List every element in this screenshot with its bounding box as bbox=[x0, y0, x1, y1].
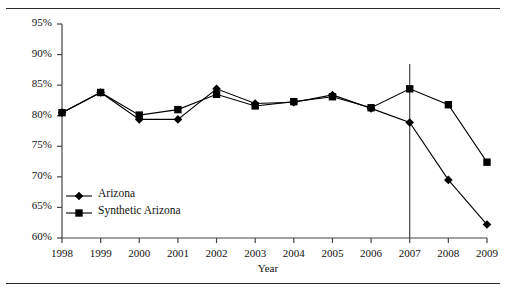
data-point-marker bbox=[58, 109, 65, 116]
x-axis-tick-label: 2004 bbox=[274, 247, 314, 259]
y-axis-tick-label: 80% bbox=[18, 108, 52, 120]
x-axis-tick-label: 2000 bbox=[119, 247, 159, 259]
data-point-marker bbox=[251, 102, 258, 109]
legend-label: Arizona bbox=[98, 187, 135, 199]
x-axis-tick-label: 2003 bbox=[235, 247, 275, 259]
x-axis-tick-label: 2006 bbox=[351, 247, 391, 259]
data-point-marker bbox=[367, 104, 374, 111]
data-point-marker bbox=[483, 158, 490, 165]
data-point-marker bbox=[406, 85, 413, 92]
series-line-1 bbox=[62, 89, 487, 162]
data-point-marker bbox=[174, 106, 181, 113]
data-point-marker bbox=[97, 89, 104, 96]
y-axis-tick-label: 75% bbox=[18, 138, 52, 150]
data-point-marker bbox=[136, 111, 143, 118]
legend-label: Synthetic Arizona bbox=[98, 204, 181, 216]
x-axis-tick-label: 2009 bbox=[467, 247, 506, 259]
data-point-marker bbox=[329, 93, 336, 100]
y-axis-tick-label: 90% bbox=[18, 47, 52, 59]
x-axis-tick-label: 2005 bbox=[312, 247, 352, 259]
data-point-marker bbox=[405, 118, 414, 127]
x-axis-tick-label: 1998 bbox=[42, 247, 82, 259]
x-axis-tick-label: 2002 bbox=[197, 247, 237, 259]
x-axis-tick-label: 2001 bbox=[158, 247, 198, 259]
y-axis-tick-label: 85% bbox=[18, 77, 52, 89]
x-axis-title: Year bbox=[238, 262, 298, 274]
legend-swatch-marker bbox=[75, 192, 84, 201]
x-axis-tick-label: 2007 bbox=[390, 247, 430, 259]
data-point-marker bbox=[213, 91, 220, 98]
x-axis-tick-label: 2008 bbox=[428, 247, 468, 259]
y-axis-tick-label: 70% bbox=[18, 169, 52, 181]
y-axis-tick-label: 60% bbox=[18, 230, 52, 242]
data-point-marker bbox=[290, 98, 297, 105]
legend-swatch-marker bbox=[75, 209, 82, 216]
x-axis-tick-label: 1999 bbox=[81, 247, 121, 259]
data-point-marker bbox=[445, 101, 452, 108]
y-axis-tick-label: 65% bbox=[18, 199, 52, 211]
figure-container: 60%65%70%75%80%85%90%95% 199819992000200… bbox=[0, 0, 506, 295]
y-axis-tick-label: 95% bbox=[18, 16, 52, 28]
